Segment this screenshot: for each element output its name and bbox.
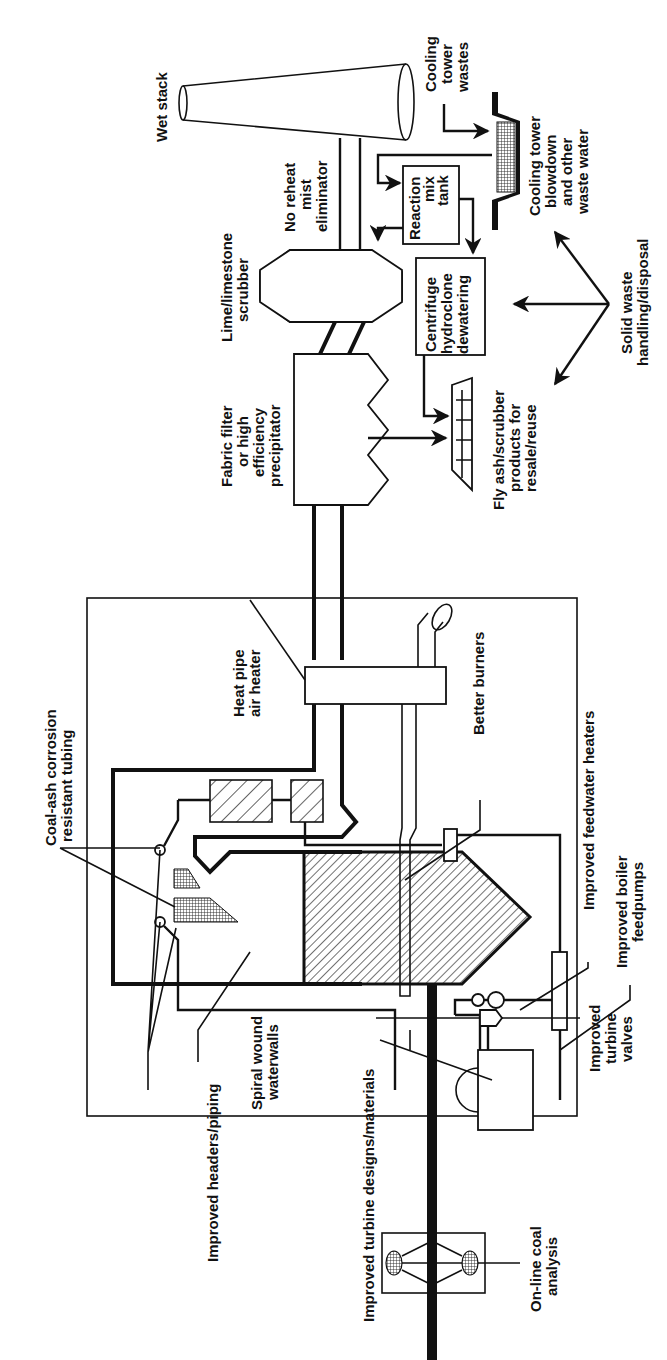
label-cooling-blowdown: Cooling tower blowdown and other waste w… <box>526 112 591 216</box>
wet-stack <box>179 64 414 140</box>
power-plant-diagram: Wet stack Reaction mix tank Centrifuge h… <box>0 0 667 1360</box>
analyzer-2 <box>462 1251 478 1275</box>
label-scrubber: Lime/limestone scrubber <box>218 229 251 342</box>
turbine <box>478 1050 533 1130</box>
coal-ash-tubing-1 <box>174 869 200 888</box>
fan-duct <box>418 613 443 667</box>
label-wet-stack: Wet stack <box>153 72 170 142</box>
superheater-2 <box>291 780 323 822</box>
label-online-coal: On-line coal analysis <box>527 1222 560 1312</box>
centrifuge-to-flyash-arrow <box>424 355 448 416</box>
label-better-burners: Better burners <box>470 632 487 735</box>
label-coal-ash: Coal-ash corrosion resistant tubing <box>42 705 75 846</box>
turbine-valve <box>480 1010 502 1026</box>
label-feedwater-heaters: Improved feedwater heaters <box>580 711 597 910</box>
fly-ash-pile <box>452 378 472 490</box>
reaction-to-scrubber-arrow <box>378 228 403 240</box>
analyzer-1 <box>386 1251 402 1275</box>
solid-waste-arrows <box>514 232 609 384</box>
spiral-leader <box>198 952 250 1062</box>
heat-pipe-air-heater <box>305 667 446 704</box>
label-headers-piping: Improved headers/piping <box>204 1084 221 1262</box>
fabric-filter <box>294 354 388 505</box>
cooling-wastes-arrow <box>444 104 488 131</box>
label-spiral-wound: Spiral wound waterwalls <box>248 1012 281 1110</box>
coal-ash-tubing-2 <box>174 898 238 922</box>
burner-box <box>444 829 457 861</box>
label-turbine-designs: Improved turbine designs/materials <box>360 1069 377 1322</box>
label-boiler-feedpumps: Improved boiler feedpumps <box>613 851 646 968</box>
fan-intake <box>428 601 456 633</box>
analyzer-lines <box>402 1243 520 1283</box>
headers-leader <box>148 850 176 1090</box>
label-centrifuge: Centrifuge hydroclone dewatering <box>422 269 471 354</box>
label-turbine-valves: Improved turbine valves <box>586 1000 635 1072</box>
flue-duct <box>314 505 342 660</box>
label-cooling-tower-wastes: Cooling tower wastes <box>422 32 471 93</box>
label-no-reheat: No reheat mist eliminator <box>281 159 330 232</box>
scrubber-to-filter-duct <box>320 322 364 354</box>
cooling-pond <box>492 92 520 230</box>
label-fly-ash: Fly ash/scrubber products for resale/reu… <box>490 386 539 510</box>
label-heat-pipe: Heat pipe air heater <box>230 645 263 717</box>
scrubber-shape <box>260 250 402 322</box>
label-solid-waste: Solid waste handling/disposal <box>618 238 651 366</box>
reaction-to-centrifuge-arrow <box>459 199 473 253</box>
superheater-1 <box>210 780 272 822</box>
label-fabric-filter: Fabric filter or high efficiency precipi… <box>218 401 283 487</box>
